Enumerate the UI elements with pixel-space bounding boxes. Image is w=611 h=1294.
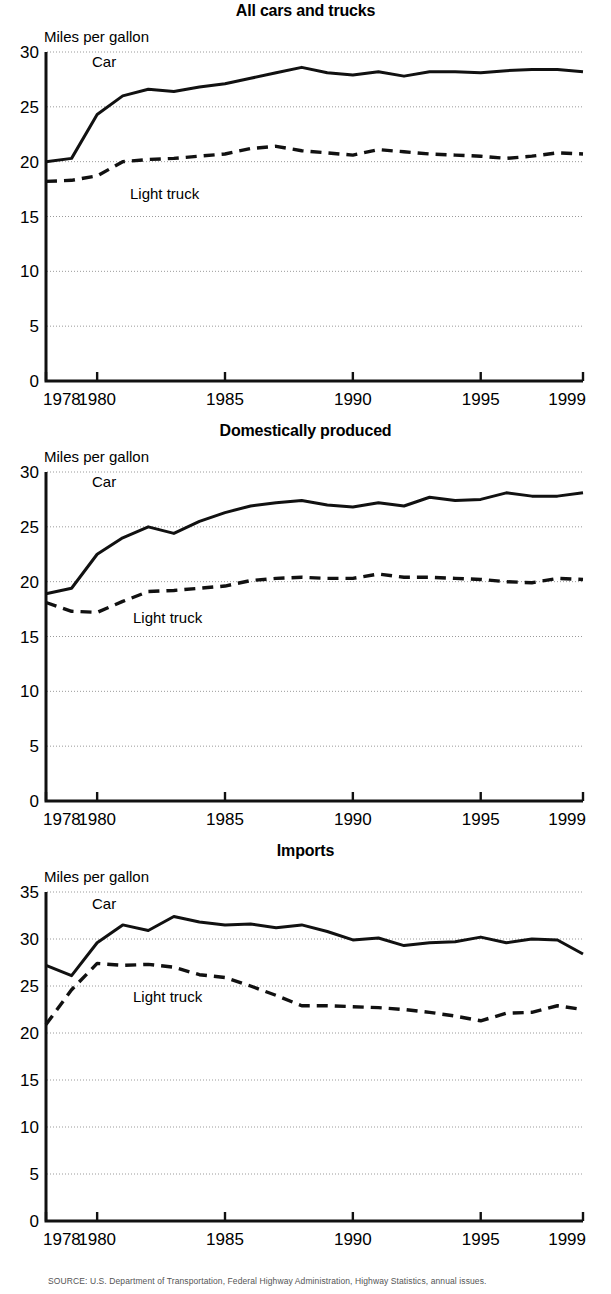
x-tick-label: 1990 — [334, 1230, 372, 1249]
x-tick-label: 1999 — [548, 390, 586, 409]
series-line-light-truck — [46, 146, 583, 181]
x-tick-label: 1980 — [78, 390, 116, 409]
plot-area: 051015202530197819801985199019951999CarL… — [0, 0, 611, 420]
y-tick-label: 5 — [30, 317, 39, 336]
series-annotation-light-truck: Light truck — [130, 185, 200, 202]
chart-panel: Domestically producedMiles per gallon051… — [0, 420, 611, 840]
y-tick-label: 20 — [20, 1024, 39, 1043]
plot-area: 051015202530197819801985199019951999CarL… — [0, 420, 611, 840]
x-tick-label: 1995 — [462, 390, 500, 409]
series-annotation-car: Car — [92, 53, 116, 70]
x-tick-label: 1985 — [206, 1230, 244, 1249]
y-tick-label: 15 — [20, 628, 39, 647]
x-tick-label: 1995 — [462, 1230, 500, 1249]
x-tick-label: 1990 — [334, 810, 372, 829]
y-tick-label: 5 — [30, 737, 39, 756]
series-annotation-light-truck: Light truck — [133, 988, 203, 1005]
series-line-light-truck — [46, 963, 583, 1024]
x-tick-label: 1985 — [206, 390, 244, 409]
source-note: SOURCE: U.S. Department of Transportatio… — [48, 1276, 608, 1287]
x-tick-label: 1980 — [78, 810, 116, 829]
y-tick-label: 30 — [20, 463, 39, 482]
x-tick-label: 1999 — [548, 810, 586, 829]
series-line-light-truck — [46, 574, 583, 612]
x-tick-label: 1980 — [78, 1230, 116, 1249]
x-tick-label: 1978 — [43, 810, 81, 829]
y-tick-label: 15 — [20, 1071, 39, 1090]
plot-area: 05101520253035197819801985199019951999Ca… — [0, 840, 611, 1294]
series-annotation-light-truck: Light truck — [133, 609, 203, 626]
y-tick-label: 25 — [20, 977, 39, 996]
x-tick-label: 1978 — [43, 1230, 81, 1249]
x-tick-label: 1978 — [43, 390, 81, 409]
y-tick-label: 25 — [20, 98, 39, 117]
x-tick-label: 1995 — [462, 810, 500, 829]
y-tick-label: 10 — [20, 262, 39, 281]
y-tick-label: 20 — [20, 153, 39, 172]
y-tick-label: 5 — [30, 1165, 39, 1184]
x-tick-label: 1985 — [206, 810, 244, 829]
y-tick-label: 10 — [20, 1118, 39, 1137]
y-tick-label: 25 — [20, 518, 39, 537]
y-tick-label: 35 — [20, 883, 39, 902]
y-tick-label: 0 — [30, 1212, 39, 1231]
x-tick-label: 1999 — [548, 1230, 586, 1249]
y-tick-label: 0 — [30, 792, 39, 811]
series-annotation-car: Car — [92, 473, 116, 490]
y-tick-label: 0 — [30, 372, 39, 391]
y-tick-label: 15 — [20, 208, 39, 227]
series-annotation-car: Car — [92, 895, 116, 912]
chart-panel: ImportsMiles per gallon05101520253035197… — [0, 840, 611, 1294]
y-tick-label: 30 — [20, 930, 39, 949]
y-tick-label: 10 — [20, 682, 39, 701]
x-tick-label: 1990 — [334, 390, 372, 409]
y-tick-label: 20 — [20, 573, 39, 592]
chart-panel: All cars and trucksMiles per gallon05101… — [0, 0, 611, 420]
series-line-car — [46, 67, 583, 161]
y-tick-label: 30 — [20, 43, 39, 62]
